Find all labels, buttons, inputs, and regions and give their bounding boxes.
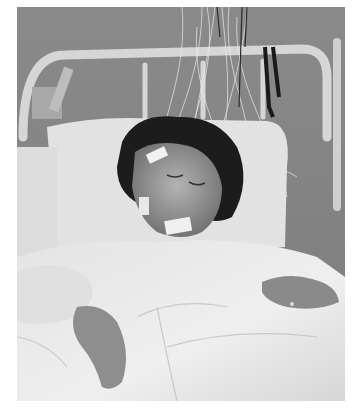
ring (290, 302, 294, 306)
sleep-study-photo (17, 7, 345, 401)
gown (17, 240, 345, 401)
